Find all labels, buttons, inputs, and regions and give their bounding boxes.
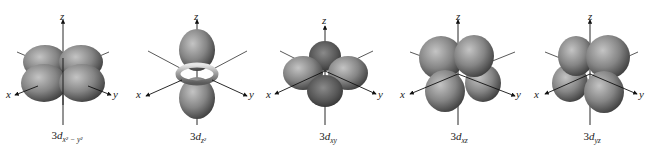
label-subscript: z² (201, 136, 206, 145)
axis-label-y: y (639, 89, 644, 100)
axis-label-z: z (456, 11, 460, 22)
orbital-label: 3dyz (583, 130, 600, 145)
axis-label-x: x (534, 89, 539, 100)
axis-label-y: y (113, 89, 118, 100)
axis-label-x: x (6, 89, 11, 100)
axis-label-z: z (60, 11, 64, 22)
orbital-label: 3dx² − y² (52, 129, 83, 144)
orbital-panel-dyz: z x y 3dyz (520, 0, 649, 152)
label-subscript: x² − y² (63, 135, 83, 144)
axis-label-z: z (588, 11, 592, 22)
axis-label-z: z (194, 11, 198, 22)
label-subscript: xz (461, 136, 467, 145)
orbital-panel-dxz: z x y 3dxz (390, 0, 520, 152)
axis-label-z: z (322, 15, 326, 26)
axis-label-x: x (400, 89, 405, 100)
orbital-panel-dz2: z x y 3dz² (130, 0, 260, 152)
orbital-label: 3dz² (190, 130, 206, 145)
axis-label-x: x (136, 89, 141, 100)
axis-label-x: x (266, 89, 271, 100)
orbital-label: 3dxz (450, 130, 467, 145)
label-subscript: yz (594, 136, 600, 145)
axis-label-y: y (378, 89, 383, 100)
orbital-label: 3dxy (319, 130, 337, 145)
orbital-panel-dxy: z x y 3dxy (260, 0, 390, 152)
orbital-panel-dx2-y2: z x y 3dx² − y² (0, 0, 130, 152)
axis-label-y: y (249, 89, 254, 100)
label-subscript: xy (330, 136, 337, 145)
